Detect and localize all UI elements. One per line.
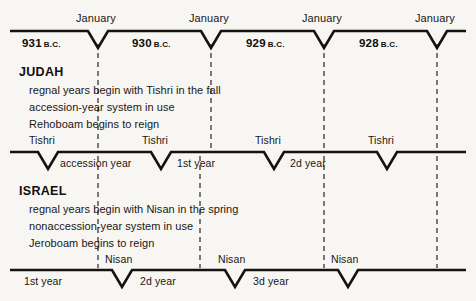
festival-label-tishri-4: Tishri <box>368 135 394 146</box>
festival-label-tishri-1: Tishri <box>29 135 55 146</box>
israel-note-1: regnal years begin with Nisan in the spr… <box>29 204 238 215</box>
year-era: B.C. <box>154 40 171 49</box>
festival-label-tishri-2: Tishri <box>142 135 168 146</box>
month-label-january-3: January <box>302 13 342 24</box>
judah-span-1st-year: 1st year <box>177 158 215 169</box>
israel-span-1st-year: 1st year <box>24 276 62 287</box>
year-label-930: 930B.C. <box>132 38 171 50</box>
festival-label-tishri-3: Tishri <box>255 135 281 146</box>
judah-span-accession-year: accession year <box>60 158 131 169</box>
kingdom-heading-israel: ISRAEL <box>19 185 67 198</box>
year-era: B.C. <box>44 40 61 49</box>
year-label-928: 928B.C. <box>359 38 398 50</box>
israel-note-3: Jeroboam begins to reign <box>29 238 154 249</box>
month-label-january-2: January <box>189 13 229 24</box>
timeline-diagram: January January January January 931B.C. … <box>0 0 476 301</box>
year-value: 931 <box>22 37 42 49</box>
year-label-931: 931B.C. <box>22 38 61 50</box>
bottom-timeline-rule <box>10 270 466 287</box>
year-label-929: 929B.C. <box>246 38 285 50</box>
israel-span-3d-year: 3d year <box>253 276 289 287</box>
kingdom-heading-judah: JUDAH <box>19 66 64 79</box>
year-era: B.C. <box>268 40 285 49</box>
israel-span-2d-year: 2d year <box>140 276 176 287</box>
year-value: 929 <box>246 37 266 49</box>
judah-span-2d-year: 2d year <box>290 158 326 169</box>
year-value: 930 <box>132 37 152 49</box>
year-era: B.C. <box>381 40 398 49</box>
judah-note-3: Rehoboam begins to reign <box>29 119 159 130</box>
festival-label-nisan-2: Nisan <box>218 254 245 265</box>
year-value: 928 <box>359 37 379 49</box>
festival-label-nisan-3: Nisan <box>331 254 358 265</box>
judah-note-1: regnal years begin with Tishri in the fa… <box>29 85 221 96</box>
festival-label-nisan-1: Nisan <box>105 254 132 265</box>
month-label-january-4: January <box>415 13 455 24</box>
israel-note-2: nonaccession-year system in use <box>29 221 193 232</box>
judah-note-2: accession-year system in use <box>29 102 175 113</box>
month-label-january-1: January <box>76 13 116 24</box>
